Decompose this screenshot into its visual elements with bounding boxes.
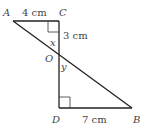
measure-ac: 4 cm — [22, 7, 47, 18]
measure-co: 3 cm — [63, 30, 88, 41]
label-o: O — [45, 53, 53, 64]
angle-x-label: x — [50, 37, 56, 48]
label-b: B — [132, 114, 140, 125]
label-d: D — [51, 114, 60, 125]
angle-y-label: y — [60, 61, 67, 72]
right-angle-marker-d — [59, 97, 70, 108]
measure-db: 7 cm — [82, 114, 107, 125]
geometry-diagram: A C O D B 4 cm 3 cm 7 cm x y — [0, 0, 144, 129]
right-angle-marker-c — [48, 21, 59, 32]
label-a: A — [2, 7, 10, 18]
label-c: C — [59, 7, 67, 18]
